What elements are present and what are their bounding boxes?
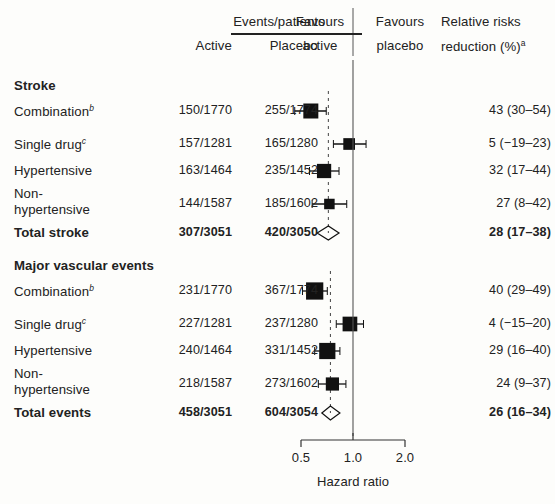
header-rrr-line1: Relative risks (441, 14, 521, 29)
row-label: Hypertensive (14, 343, 92, 358)
cell-rrr: 32 (17–44) (489, 163, 551, 177)
row-label: Single drugc (14, 316, 86, 332)
forest-plot-canvas (0, 0, 555, 504)
row-label: Non- (14, 366, 43, 381)
cell-rrr: 4 (−15–20) (489, 316, 551, 330)
study-square-marker (333, 138, 366, 150)
section-title-1: Stroke (14, 78, 56, 93)
cell-active-events: 231/1770 (179, 283, 232, 297)
cell-active-events: 307/3051 (179, 225, 232, 239)
cell-rrr: 40 (29–49) (489, 283, 551, 297)
cell-active-events: 240/1464 (179, 343, 232, 357)
cell-rrr: 43 (30–54) (489, 103, 551, 117)
study-square-marker (318, 377, 346, 390)
footnote-marker: c (82, 136, 86, 146)
row-label: Hypertensive (14, 163, 92, 178)
row-label: Non- (14, 186, 43, 201)
section-title-2: Major vascular events (14, 258, 154, 273)
row-label-cont: hypertensive (14, 382, 90, 397)
cell-rrr: 5 (−19–23) (489, 136, 551, 150)
row-label: Total stroke (14, 225, 89, 240)
row-label: Single drugc (14, 136, 86, 152)
cell-placebo-events: 420/3050 (265, 225, 318, 239)
cell-rrr: 24 (9–37) (496, 376, 551, 390)
cell-rrr: 28 (17–38) (489, 225, 551, 239)
cell-rrr: 26 (16–34) (489, 405, 551, 419)
footnote-marker: c (82, 316, 86, 326)
row-label-cont: hypertensive (14, 202, 90, 217)
cell-placebo-events: 185/1602 (265, 196, 318, 210)
cell-placebo-events: 235/1452 (265, 163, 318, 177)
cell-active-events: 150/1770 (179, 103, 232, 117)
row-label: Combinationb (14, 103, 94, 119)
axis-title: Hazard ratio (263, 474, 443, 489)
cell-active-events: 163/1464 (179, 163, 232, 177)
cell-placebo-events: 255/1774 (265, 103, 318, 117)
study-square-marker (315, 343, 340, 359)
cell-rrr: 27 (8–42) (496, 196, 551, 210)
study-square-marker (336, 317, 363, 332)
cell-active-events: 157/1281 (179, 136, 232, 150)
header-underline (231, 33, 362, 35)
cell-active-events: 458/3051 (179, 405, 232, 419)
cell-active-events: 144/1587 (179, 196, 232, 210)
cell-placebo-events: 165/1280 (265, 136, 318, 150)
cell-placebo-events: 367/1774 (265, 283, 318, 297)
cell-rrr: 29 (16–40) (489, 343, 551, 357)
cell-placebo-events: 237/1280 (265, 316, 318, 330)
footnote-marker: b (89, 283, 94, 293)
footnote-marker: b (89, 103, 94, 113)
cell-active-events: 218/1587 (179, 376, 232, 390)
cell-placebo-events: 604/3054 (265, 405, 318, 419)
header-rrr-footnote-marker: a (521, 38, 526, 48)
row-label: Total events (14, 405, 91, 420)
axis-tick-label: 2.0 (315, 450, 495, 465)
cell-placebo-events: 331/1452 (265, 343, 318, 357)
cell-placebo-events: 273/1602 (265, 376, 318, 390)
cell-active-events: 227/1281 (179, 316, 232, 330)
row-label: Combinationb (14, 283, 94, 299)
header-active: Active (195, 38, 232, 53)
header-rrr-line2: reduction (%)a (441, 38, 526, 54)
